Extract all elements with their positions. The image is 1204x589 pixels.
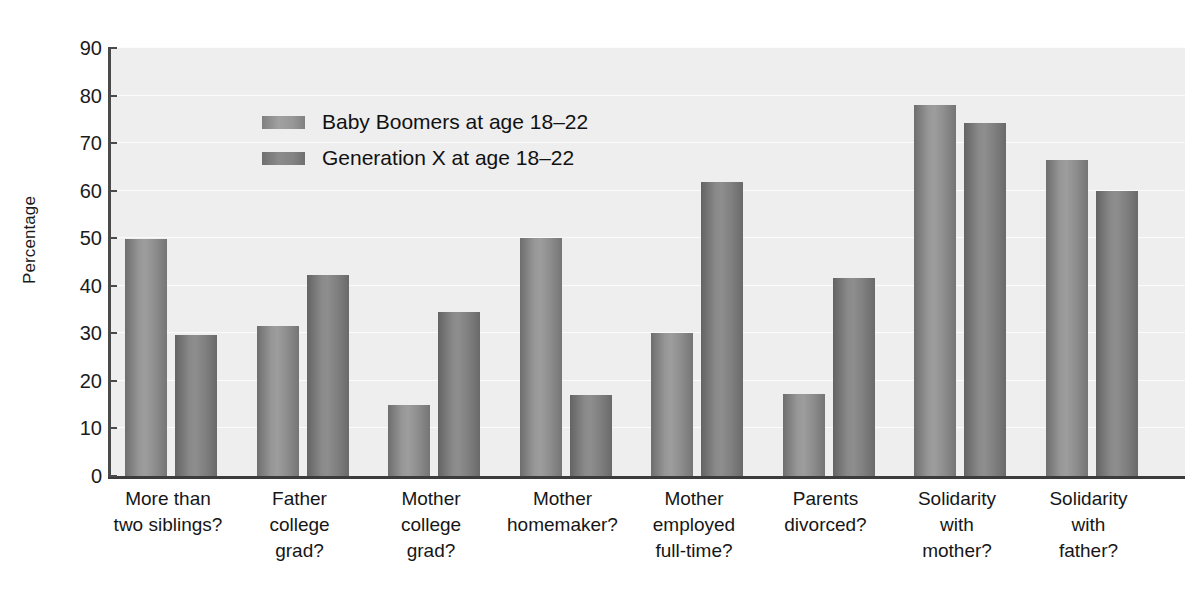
bar-series-1-category-3 xyxy=(570,395,612,476)
x-axis-line xyxy=(108,476,1185,479)
legend-item-generation-x: Generation X at age 18–22 xyxy=(262,140,588,176)
y-axis-tick-mark xyxy=(108,142,117,144)
y-axis-tick-label: 30 xyxy=(60,322,102,345)
bar-series-1-category-6 xyxy=(964,123,1006,476)
bar-series-0-category-6 xyxy=(914,105,956,476)
y-axis-tick-mark xyxy=(108,427,117,429)
legend-label-series-1: Generation X at age 18–22 xyxy=(322,146,574,170)
y-axis-tick-label: 60 xyxy=(60,179,102,202)
bar-chart-figure: Percentage 0102030405060708090 Baby Boom… xyxy=(0,0,1204,589)
x-axis-tick-label: Solidaritywithfather? xyxy=(994,486,1184,564)
bar-series-0-category-4 xyxy=(651,333,693,476)
bar-series-1-category-1 xyxy=(307,275,349,476)
bar-series-0-category-7 xyxy=(1046,160,1088,476)
legend-swatch-icon-series-1 xyxy=(262,152,305,165)
y-axis-tick-mark xyxy=(108,285,117,287)
bar-series-1-category-5 xyxy=(833,278,875,476)
legend: Baby Boomers at age 18–22 Generation X a… xyxy=(262,104,588,176)
gridline xyxy=(111,237,1185,238)
gridline xyxy=(111,190,1185,191)
y-axis-tick-label: 90 xyxy=(60,37,102,60)
gridline xyxy=(111,285,1185,286)
y-axis-tick-mark xyxy=(108,47,117,49)
y-axis-tick-mark xyxy=(108,190,117,192)
x-axis-tick-label-line: with xyxy=(994,512,1184,538)
x-axis-tick-label-line: father? xyxy=(994,538,1184,564)
y-axis-title: Percentage xyxy=(0,0,60,480)
bar-series-0-category-5 xyxy=(783,394,825,476)
y-axis-tick-label: 80 xyxy=(60,84,102,107)
bar-series-0-category-3 xyxy=(520,238,562,476)
y-axis-tick-mark xyxy=(108,332,117,334)
y-axis-tick-label: 70 xyxy=(60,132,102,155)
y-axis-tick-mark xyxy=(108,380,117,382)
bar-series-0-category-1 xyxy=(257,326,299,476)
y-axis-tick-mark xyxy=(108,237,117,239)
y-axis-tick-label: 40 xyxy=(60,274,102,297)
bar-series-1-category-7 xyxy=(1096,191,1138,476)
bar-series-1-category-2 xyxy=(438,312,480,476)
y-axis-tick-label: 0 xyxy=(60,465,102,488)
y-axis-tick-mark xyxy=(108,475,117,477)
x-axis-tick-labels: More thantwo siblings?Fathercollegegrad?… xyxy=(108,486,1185,586)
gridline xyxy=(111,47,1185,48)
gridline xyxy=(111,95,1185,96)
legend-item-baby-boomers: Baby Boomers at age 18–22 xyxy=(262,104,588,140)
y-axis-tick-label: 10 xyxy=(60,417,102,440)
x-axis-tick-label-line: Solidarity xyxy=(994,486,1184,512)
y-axis-tick-label: 50 xyxy=(60,227,102,250)
bar-series-1-category-0 xyxy=(175,335,217,476)
bar-series-0-category-0 xyxy=(125,239,167,476)
x-axis-tick-label-line: full-time? xyxy=(599,538,789,564)
legend-label-series-0: Baby Boomers at age 18–22 xyxy=(322,110,588,134)
bar-series-0-category-2 xyxy=(388,405,430,476)
legend-swatch-icon-series-0 xyxy=(262,116,305,129)
y-axis-title-text: Percentage xyxy=(20,196,40,284)
y-axis-tick-mark xyxy=(108,95,117,97)
bar-series-1-category-4 xyxy=(701,182,743,476)
y-axis-tick-label: 20 xyxy=(60,369,102,392)
x-axis-tick-label-line: grad? xyxy=(336,538,526,564)
